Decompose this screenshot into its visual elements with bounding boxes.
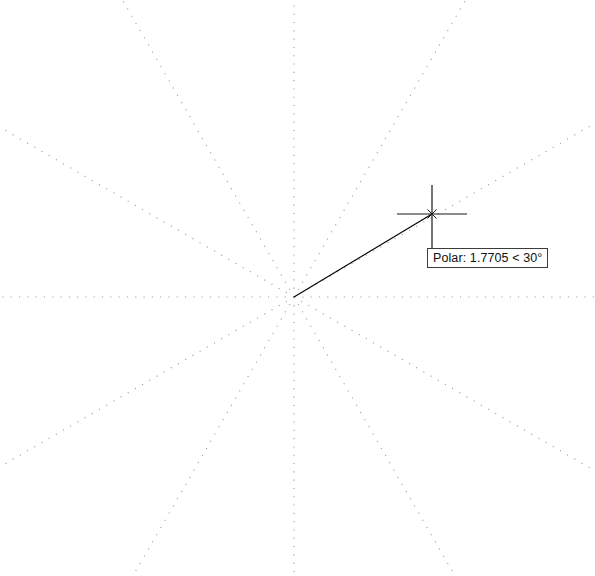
polar-ray-240 xyxy=(133,297,294,576)
rubber-band-segment xyxy=(294,214,432,297)
polar-tracking-rays xyxy=(0,0,595,576)
polar-ray-120 xyxy=(123,0,294,297)
polar-ray-30 xyxy=(294,123,595,297)
polar-ray-300 xyxy=(294,297,455,576)
cad-drawing-area[interactable]: Polar: 1.7705 < 30° xyxy=(0,0,595,576)
polar-tooltip: Polar: 1.7705 < 30° xyxy=(427,248,548,268)
rubber-band-line xyxy=(294,214,432,297)
polar-ray-150 xyxy=(0,127,294,297)
polar-ray-330 xyxy=(294,297,595,471)
polar-tooltip-label: Polar: 1.7705 < 30° xyxy=(433,249,542,267)
polar-ray-210 xyxy=(0,297,294,467)
polar-tracking-overlay xyxy=(0,0,595,576)
crosshair-cursor[interactable] xyxy=(397,185,467,248)
